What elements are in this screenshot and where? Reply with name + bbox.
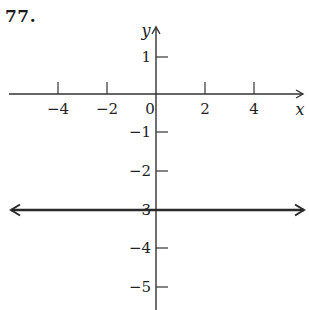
y-axis: 1 −1 −2 −3 −4 −5 y (129, 21, 168, 310)
x-tick-label: 0 (145, 100, 155, 118)
x-axis: −4 −2 0 2 4 x (9, 82, 305, 119)
y-tick-label: 1 (141, 48, 151, 66)
y-axis-label: y (140, 21, 151, 40)
y-tick-label: −4 (129, 239, 151, 257)
graph-figure: 77. −4 −2 0 2 4 (0, 0, 309, 310)
x-tick-label: −2 (96, 100, 118, 118)
x-axis-label: x (295, 100, 304, 119)
x-tick-label: −4 (47, 100, 69, 118)
y-tick-label: −2 (129, 162, 151, 180)
y-tick-label: −1 (129, 123, 151, 141)
y-ticks (156, 57, 168, 287)
x-tick-label: 4 (249, 100, 259, 118)
coordinate-plane: −4 −2 0 2 4 x 1 −1 −2 −3 −4 −5 y (0, 0, 309, 310)
x-tick-label: 2 (200, 100, 210, 118)
y-tick-label: −5 (129, 278, 151, 296)
